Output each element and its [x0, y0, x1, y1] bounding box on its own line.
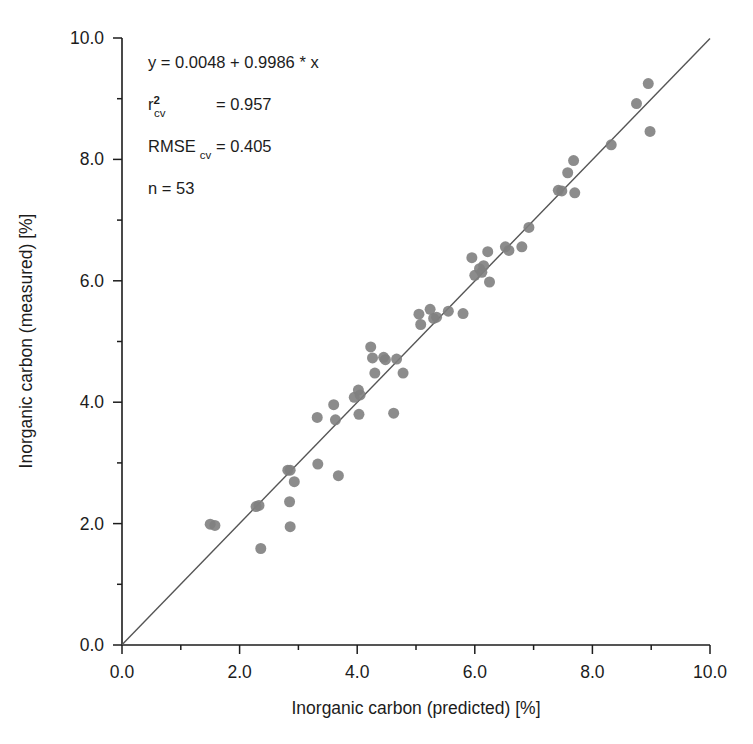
y-tick-label: 2.0: [80, 514, 105, 534]
scatter-point: [606, 139, 617, 150]
y-tick-label: 10.0: [70, 28, 104, 48]
x-axis-ticks: [122, 645, 710, 654]
scatter-point: [255, 543, 266, 554]
x-tick-label: 10.0: [693, 662, 727, 682]
annotation-r2: r2cv: [148, 94, 166, 119]
scatter-point: [333, 470, 344, 481]
x-tick-label: 8.0: [580, 662, 605, 682]
rmse-subscript: cv: [200, 149, 212, 161]
scatter-point: [523, 222, 534, 233]
scatter-point: [458, 308, 469, 319]
scatter-point: [415, 319, 426, 330]
x-axis-tick-labels: 0.02.04.06.08.010.0: [110, 662, 727, 682]
scatter-point: [391, 354, 402, 365]
y-axis-tick-labels: 0.02.04.06.08.010.0: [70, 28, 104, 655]
scatter-point: [365, 341, 376, 352]
scatter-point: [413, 309, 424, 320]
annotation-n: n = 53: [148, 179, 194, 197]
scatter-point: [388, 408, 399, 419]
scatter-point: [398, 368, 409, 379]
scatter-point: [369, 368, 380, 379]
scatter-point: [328, 399, 339, 410]
scatter-point: [330, 414, 341, 425]
scatter-point: [355, 389, 366, 400]
scatter-point: [289, 476, 300, 487]
plot-canvas: 0.02.04.06.08.010.0 0.02.04.06.08.010.0 …: [0, 0, 753, 744]
annotation-r2-value: = 0.957: [216, 95, 272, 113]
y-tick-label: 6.0: [80, 271, 105, 291]
scatter-point: [284, 496, 295, 507]
y-tick-label: 0.0: [80, 635, 105, 655]
y-tick-label: 4.0: [80, 392, 105, 412]
scatter-point: [353, 409, 364, 420]
scatter-point: [516, 241, 527, 252]
y-axis-ticks: [113, 38, 122, 645]
scatter-point: [466, 252, 477, 263]
regression-line: [122, 39, 710, 645]
x-tick-label: 4.0: [345, 662, 370, 682]
scatter-point: [484, 277, 495, 288]
scatter-point: [631, 98, 642, 109]
scatter-point: [643, 78, 654, 89]
scatter-plot-figure: 0.02.04.06.08.010.0 0.02.04.06.08.010.0 …: [0, 0, 753, 744]
scatter-point: [312, 412, 323, 423]
r2-superscript: 2: [154, 94, 160, 106]
x-tick-label: 2.0: [227, 662, 252, 682]
annotation-rmse-value: = 0.405: [216, 137, 272, 155]
x-tick-label: 0.0: [110, 662, 135, 682]
scatter-point: [443, 306, 454, 317]
scatter-point: [569, 187, 580, 198]
r2-subscript: cv: [154, 107, 166, 119]
scatter-point: [312, 459, 323, 470]
x-axis-title: Inorganic carbon (predicted) [%]: [291, 698, 540, 718]
annotation-equation: y = 0.0048 + 0.9986 * x: [148, 53, 319, 71]
scatter-point: [568, 155, 579, 166]
scatter-point: [285, 521, 296, 532]
scatter-point: [482, 246, 493, 257]
scatter-point: [209, 520, 220, 531]
y-axis-title: Inorganic carbon (measured) [%]: [16, 214, 36, 469]
scatter-point: [431, 312, 442, 323]
y-tick-label: 8.0: [80, 149, 105, 169]
scatter-points-group: [205, 78, 656, 554]
rmse-base: RMSE: [148, 137, 196, 155]
x-tick-label: 6.0: [463, 662, 488, 682]
annotation-rmse: RMSEcv: [148, 137, 211, 161]
scatter-point: [503, 245, 514, 256]
scatter-point: [380, 354, 391, 365]
scatter-point: [254, 500, 265, 511]
scatter-point: [556, 185, 567, 196]
scatter-point: [285, 465, 296, 476]
scatter-point: [478, 260, 489, 271]
scatter-point: [645, 126, 656, 137]
scatter-point: [367, 352, 378, 363]
annotation-block: y = 0.0048 + 0.9986 * x r2cv = 0.957 RMS…: [148, 53, 319, 197]
scatter-point: [562, 167, 573, 178]
